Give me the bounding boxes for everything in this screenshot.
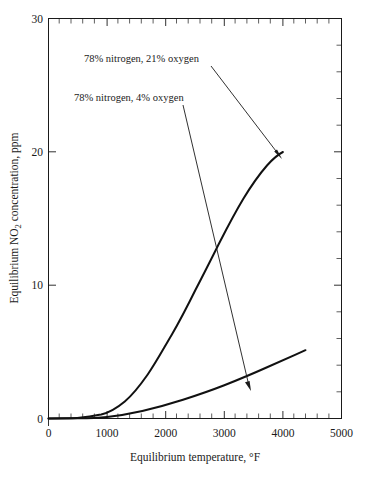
x-tick-label-5000: 5000 [330, 427, 353, 439]
annotation-label-4-percent-oxygen: 78% nitrogen, 4% oxygen [74, 92, 184, 103]
x-tick-label-2000: 2000 [154, 427, 177, 439]
x-tick-label-3000: 3000 [213, 427, 236, 439]
y-tick-label-20: 20 [32, 146, 44, 158]
annotation-arrow-21-percent-oxygen [211, 66, 282, 159]
svg-text:Equilibrium NO2 concentration,: Equilibrium NO2 concentration, ppm [8, 132, 23, 303]
curve-4-percent-oxygen [49, 350, 306, 418]
x-tick-label-0: 0 [46, 427, 52, 439]
figure-container: 0 10 20 30 0 1000 2000 3000 4000 5000 Eq… [0, 0, 370, 477]
x-axis-title: Equilibrium temperature, °F [130, 451, 260, 464]
curve-21-percent-oxygen [49, 152, 283, 419]
arrowhead-4-percent-oxygen [245, 381, 251, 391]
x-tick-label-4000: 4000 [271, 427, 294, 439]
x-axis-minor-ticks-top [59, 19, 329, 24]
y-tick-label-30: 30 [32, 13, 44, 25]
y-axis-title-pre: Equilibrium NO [8, 228, 21, 303]
annotation-label-21-percent-oxygen: 78% nitrogen, 21% oxygen [84, 53, 200, 64]
annotation-arrow-4-percent-oxygen [183, 105, 251, 391]
y-axis-major-tick-marks-inward [49, 152, 57, 419]
x-tick-label-1000: 1000 [96, 427, 119, 439]
y-axis-minor-ticks-right [334, 45, 342, 392]
y-axis-title-post: concentration, ppm [8, 132, 21, 224]
plot-frame [49, 19, 342, 419]
x-axis-tick-labels: 0 1000 2000 3000 4000 5000 [46, 427, 354, 439]
y-axis-title: Equilibrium NO2 concentration, ppm [8, 132, 23, 303]
x-axis-major-ticks-top [107, 19, 283, 27]
y-tick-label-10: 10 [32, 279, 44, 291]
equilibrium-no2-chart: 0 10 20 30 0 1000 2000 3000 4000 5000 Eq… [0, 0, 370, 477]
y-tick-label-0: 0 [37, 413, 43, 425]
y-axis-tick-labels: 0 10 20 30 [32, 13, 44, 425]
